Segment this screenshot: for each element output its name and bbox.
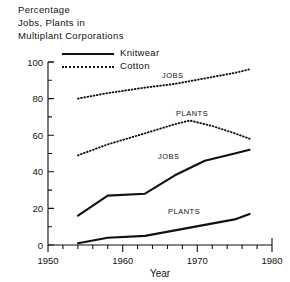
x-axis-title: Year <box>150 268 171 279</box>
y-axis-ticks <box>48 62 54 245</box>
x-tick-1960: 1960 <box>112 255 133 266</box>
x-axis-ticks <box>48 245 272 252</box>
x-tick-1950: 1950 <box>37 255 58 266</box>
chart-figure: Percentage Jobs, Plants in Multiplant Co… <box>0 0 290 282</box>
x-tick-1980: 1980 <box>261 255 282 266</box>
x-tick-1970: 1970 <box>187 255 208 266</box>
y-tick-100: 100 <box>27 57 43 68</box>
inline-label-cotton-jobs: JOBS <box>162 71 184 80</box>
inline-label-knitwear-jobs: JOBS <box>158 152 180 161</box>
series-knitwear-plants <box>78 214 250 243</box>
y-tick-0: 0 <box>38 240 43 251</box>
series-cotton-plants <box>78 121 250 156</box>
y-tick-40: 40 <box>32 166 43 177</box>
y-tick-20: 20 <box>32 203 43 214</box>
plot-area: 100 80 60 40 20 0 1950 1960 1970 1980 Ye… <box>0 0 290 282</box>
x-axis-labels: 1950 1960 1970 1980 Year <box>37 255 282 279</box>
y-tick-80: 80 <box>32 93 43 104</box>
inline-label-cotton-plants: PLANTS <box>176 109 208 118</box>
y-axis-labels: 100 80 60 40 20 0 <box>27 57 43 251</box>
inline-label-knitwear-plants: PLANTS <box>168 207 200 216</box>
y-tick-60: 60 <box>32 130 43 141</box>
